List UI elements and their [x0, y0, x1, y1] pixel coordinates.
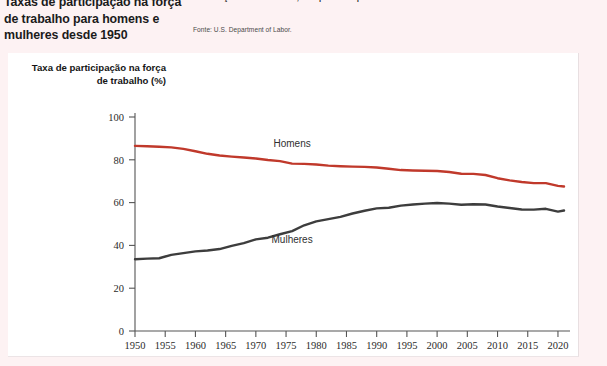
y-tick-label: 20	[114, 283, 125, 294]
series-line-mulheres	[135, 203, 564, 259]
article-header: Taxas de participação na força de trabal…	[0, 0, 607, 53]
line-chart: 0204060801001950195519601965197019751980…	[8, 53, 579, 357]
series-label-mulheres: Mulheres	[272, 234, 313, 245]
chart-panel: Taxa de participação na força de trabalh…	[8, 53, 579, 357]
x-tick-label: 1950	[125, 340, 146, 351]
source-note: Fonte: U.S. Department of Labor.	[193, 26, 292, 33]
x-tick-label: 2010	[487, 340, 508, 351]
y-tick-label: 100	[108, 112, 124, 123]
x-tick-label: 2000	[427, 340, 448, 351]
x-tick-label: 1955	[155, 340, 176, 351]
body-paragraph: na força de trabalho, ao passo que os ho…	[193, 0, 593, 4]
x-tick-label: 1975	[276, 340, 297, 351]
x-tick-label: 1970	[245, 340, 266, 351]
x-tick-label: 2015	[517, 340, 538, 351]
y-tick-label: 60	[114, 197, 125, 208]
x-tick-label: 1965	[215, 340, 236, 351]
x-tick-label: 1985	[336, 340, 357, 351]
x-tick-label: 2005	[457, 340, 478, 351]
page-title: Taxas de participação na força de trabal…	[4, 0, 190, 44]
y-tick-label: 80	[114, 155, 125, 166]
x-tick-label: 1990	[366, 340, 387, 351]
series-line-homens	[135, 146, 564, 187]
x-tick-label: 1980	[306, 340, 327, 351]
x-tick-label: 2020	[547, 340, 568, 351]
y-tick-label: 0	[119, 326, 124, 337]
series-label-homens: Homens	[273, 138, 310, 149]
y-tick-label: 40	[114, 240, 125, 251]
x-tick-label: 1960	[185, 340, 206, 351]
x-tick-label: 1995	[396, 340, 417, 351]
